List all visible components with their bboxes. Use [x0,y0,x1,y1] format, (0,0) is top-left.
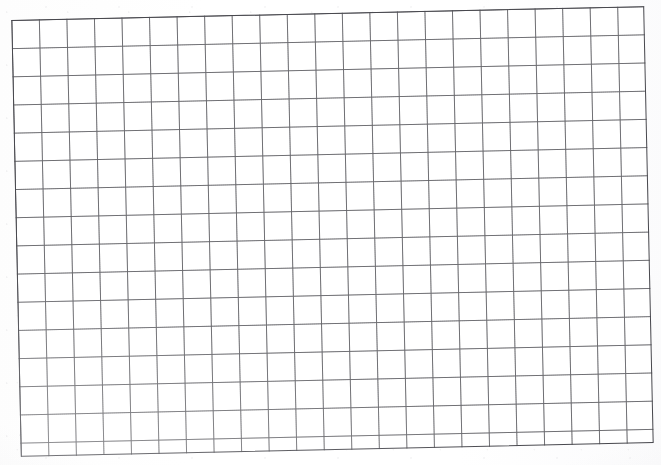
grid-paper-block [11,6,653,457]
grid-ruling-lines [11,6,653,457]
grid-block-wrapper [0,0,661,465]
scanned-page [0,0,661,465]
